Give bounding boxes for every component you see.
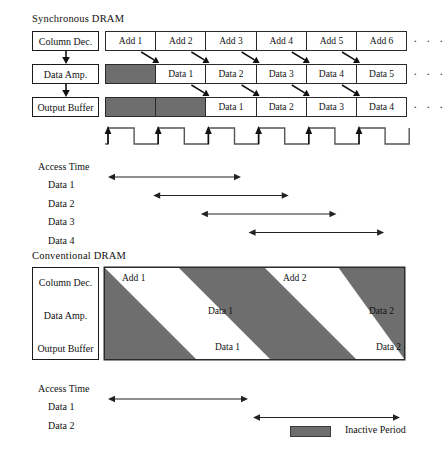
legend-inactive-swatch [290,426,331,437]
conv-access-row-label: Data 1 [48,401,74,412]
conv-access-row-label: Data 2 [48,420,74,431]
legend-inactive-label: Inactive Period [345,424,406,435]
